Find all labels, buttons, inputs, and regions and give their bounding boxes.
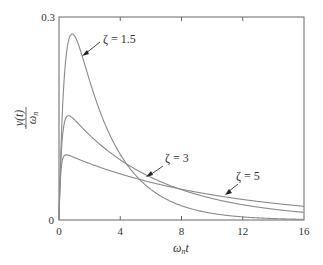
- x-tick-label-4: 4: [118, 225, 124, 237]
- x-tick-label-16: 16: [299, 225, 311, 237]
- curve-zeta-3: [59, 116, 304, 220]
- svg-text:y(t): y(t): [12, 110, 26, 128]
- x-tick-label-12: 12: [237, 225, 248, 237]
- curve-zeta-1-5: [59, 34, 304, 220]
- annotation-zeta-3: ζ = 3: [146, 151, 189, 177]
- annotation-zeta-5: ζ = 5: [225, 169, 260, 195]
- x-tick-label-0: 0: [56, 225, 62, 237]
- arrowhead-icon: [82, 50, 89, 56]
- x-tick-label-8: 8: [179, 225, 185, 237]
- label-zeta-5: ζ = 5: [236, 169, 260, 183]
- y-tick-label-top: 0.3: [41, 11, 55, 23]
- y-axis-label: y(t) ωn: [12, 107, 40, 129]
- y-tick-label-zero: 0: [49, 214, 55, 226]
- label-zeta-1-5: ζ = 1.5: [103, 32, 136, 46]
- label-zeta-3: ζ = 3: [165, 151, 189, 165]
- x-axis-label: ωnt: [173, 241, 189, 256]
- chart: 0.3 0 0 4 8 12 16 ωnt y(t) ωn ζ = 1.5 ζ …: [0, 0, 323, 265]
- annotation-zeta-1-5: ζ = 1.5: [82, 32, 136, 56]
- svg-text:ωn: ωn: [25, 112, 40, 124]
